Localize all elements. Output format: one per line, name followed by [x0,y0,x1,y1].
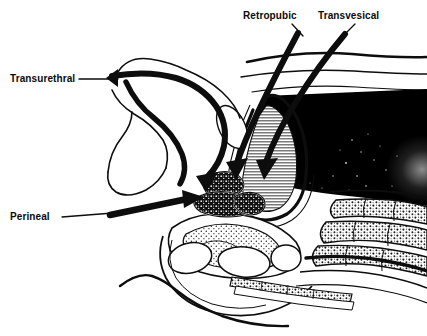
figure-canvas: Transurethral Retropubic Transvesical Pe… [0,0,427,336]
pubic-symphysis [230,277,354,310]
anatomical-figure: Transurethral Retropubic Transvesical Pe… [0,0,427,336]
label-transvesical: Transvesical [318,10,379,21]
label-transurethral: Transurethral [10,73,75,84]
arrow-transurethral-limb [126,82,185,184]
arrow-perineal [110,190,204,215]
leader-transvesical [342,24,355,37]
label-perineal: Perineal [10,211,50,222]
label-retropubic: Retropubic [243,10,297,21]
sacrum-coccyx [296,191,427,304]
leader-perineal [62,213,113,217]
